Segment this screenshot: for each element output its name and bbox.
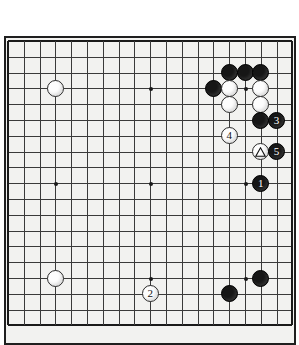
stone-black[interactable] xyxy=(252,112,269,129)
move-number-label: 2 xyxy=(147,288,153,299)
grid-line-vertical xyxy=(119,41,120,325)
star-point xyxy=(149,87,153,91)
stone-black[interactable] xyxy=(252,270,269,287)
move-stone-2[interactable]: 2 xyxy=(142,285,159,302)
triangle-icon xyxy=(255,147,266,157)
move-number-label: 5 xyxy=(274,146,280,157)
stone-black[interactable] xyxy=(205,80,222,97)
stone-white[interactable] xyxy=(252,80,269,97)
move-number-label: 1 xyxy=(258,177,264,188)
diagram-page: 34512 xyxy=(0,0,299,345)
stone-black[interactable] xyxy=(221,285,238,302)
stone-black[interactable] xyxy=(237,64,254,81)
grid-line-vertical xyxy=(7,41,9,325)
grid-line-vertical xyxy=(182,41,183,325)
grid-line-vertical xyxy=(291,41,293,325)
stone-black[interactable] xyxy=(221,64,238,81)
stone-white[interactable] xyxy=(221,80,238,97)
star-point xyxy=(149,277,153,281)
stone-white[interactable] xyxy=(221,96,238,113)
stone-white[interactable] xyxy=(47,80,64,97)
marked-stone-white[interactable] xyxy=(252,143,269,160)
stone-white[interactable] xyxy=(47,270,64,287)
go-board-container: 34512 xyxy=(4,36,296,345)
move-stone-5[interactable]: 5 xyxy=(268,143,285,160)
move-stone-4[interactable]: 4 xyxy=(221,127,238,144)
grid-line-vertical xyxy=(24,41,25,325)
go-board[interactable]: 34512 xyxy=(4,36,296,345)
move-number-label: 3 xyxy=(274,114,280,125)
star-point xyxy=(244,277,248,281)
grid-line-vertical xyxy=(134,41,135,325)
grid-line-vertical xyxy=(277,41,278,325)
move-stone-3[interactable]: 3 xyxy=(268,112,285,129)
grid-line-vertical xyxy=(71,41,72,325)
stone-white[interactable] xyxy=(252,96,269,113)
grid-line-vertical xyxy=(40,41,41,325)
star-point xyxy=(244,182,248,186)
star-point xyxy=(244,87,248,91)
grid-line-vertical xyxy=(103,41,104,325)
move-number-label: 4 xyxy=(226,130,232,141)
grid-line-vertical xyxy=(87,41,88,325)
star-point xyxy=(54,182,58,186)
grid-line-vertical xyxy=(166,41,167,325)
stone-black[interactable] xyxy=(252,64,269,81)
move-stone-1[interactable]: 1 xyxy=(252,175,269,192)
grid-line-vertical xyxy=(198,41,199,325)
star-point xyxy=(149,182,153,186)
